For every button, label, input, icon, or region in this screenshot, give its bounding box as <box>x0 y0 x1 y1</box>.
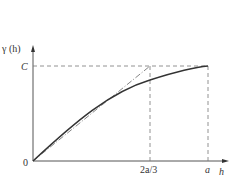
y-axis-arrow-icon <box>31 45 35 52</box>
y-axis-label: γ (h) <box>1 43 21 55</box>
x-axis-label: h <box>219 166 224 177</box>
sill-label: C <box>21 61 28 72</box>
tick-label-a: a <box>205 164 210 175</box>
tick-label-2a3: 2a/3 <box>140 164 157 175</box>
variogram-diagram: γ (h) C 0 2a/3 a h <box>0 0 238 187</box>
variogram-curve <box>33 66 208 161</box>
x-axis-arrow-icon <box>222 159 229 163</box>
tangent-line <box>33 66 150 161</box>
origin-label: 0 <box>23 157 28 168</box>
